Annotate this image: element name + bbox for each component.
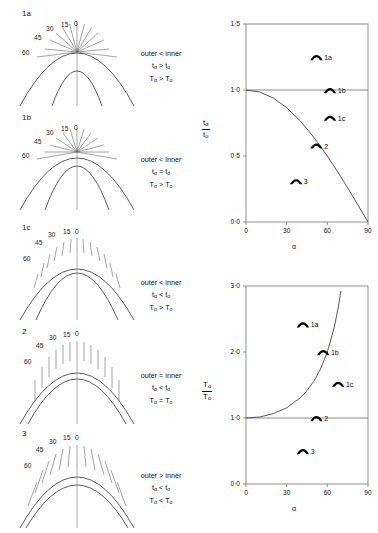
arch-panel-1c: 1c 0 15 30 45 60 outer < inner tα < to T… <box>8 222 193 320</box>
arch-panel-2: 2 0 15 30 45 60 outer = inner tα < to Tα… <box>8 326 193 424</box>
x-tick-label: 90 <box>364 227 372 234</box>
t-relation-line: tα > to <box>120 60 202 74</box>
angle-tick-15: 15 <box>61 125 68 132</box>
T-relation-line: Tα < To <box>120 495 202 509</box>
angle-tick-45: 45 <box>36 342 43 349</box>
x-tick-label: 30 <box>283 227 291 234</box>
angle-tick-45: 45 <box>34 34 41 41</box>
x-tick-label: 60 <box>324 227 332 234</box>
angle-tick-30: 30 <box>49 438 56 445</box>
y-tick-label: 0·5 <box>230 152 240 159</box>
x-axis-label-alpha: α <box>292 243 296 250</box>
y-axis-label-ta-to: tα to <box>202 118 210 142</box>
angle-tick-0: 0 <box>75 330 79 337</box>
arch-panel-3: 3 0 15 30 45 60 outer > inner tα < to Tα… <box>8 428 193 528</box>
t-relation-line: tα = to <box>120 166 202 180</box>
angle-tick-0: 0 <box>74 20 78 27</box>
data-point-marker[interactable] <box>297 449 309 454</box>
data-point-label: 3 <box>304 178 308 185</box>
y-tick-label: 3·0 <box>230 282 240 289</box>
chart-ta-to: 0·00·51·01·503060901a1b1c23 tα to α <box>200 10 375 260</box>
condition-text-3: outer > inner tα < to Tα < To <box>120 470 202 509</box>
x-tick-label: 90 <box>364 489 372 496</box>
data-point-label: 1c <box>346 381 354 388</box>
data-point-label: 2 <box>324 415 328 422</box>
y-tick-label: 1·0 <box>230 414 240 421</box>
y-tick-label: 0·0 <box>230 480 240 487</box>
y-tick-label: 2·0 <box>230 348 240 355</box>
data-point-marker[interactable] <box>310 55 322 60</box>
T-relation-line: Tα > To <box>120 302 202 316</box>
y-axis-label-denominator: to <box>202 130 210 141</box>
angle-tick-45: 45 <box>34 138 41 145</box>
data-point-label: 1a <box>311 321 319 328</box>
x-tick-label: 0 <box>244 489 248 496</box>
x-tick-label: 30 <box>283 489 291 496</box>
relation-line: outer = inner <box>120 370 202 382</box>
relation-line: outer < inner <box>120 48 202 60</box>
relation-line: outer > inner <box>120 470 202 482</box>
relation-line: outer < inner <box>120 277 202 289</box>
theory-curve <box>246 90 368 222</box>
arch-panel-1b: 1b 0 15 30 45 60 outer < inner tα = to T… <box>8 112 193 210</box>
y-tick-label: 1·0 <box>230 86 240 93</box>
t-relation-line: tα < to <box>120 482 202 496</box>
data-point-label: 2 <box>324 143 328 150</box>
condition-text-2: outer = inner tα < to Tα = To <box>120 370 202 409</box>
y-tick-label: 0·0 <box>230 218 240 225</box>
x-axis-label-alpha: α <box>292 505 296 512</box>
condition-text-1a: outer < inner tα > to Tα > To <box>120 48 202 87</box>
angle-tick-30: 30 <box>48 231 55 238</box>
T-relation-line: Tα > To <box>120 179 202 193</box>
t-relation-line: tα < to <box>120 289 202 303</box>
y-axis-label-numerator: Tα <box>202 380 212 392</box>
data-point-label: 1b <box>338 87 346 94</box>
T-relation-line: Tα = To <box>120 395 202 409</box>
t-relation-line: tα < to <box>120 382 202 396</box>
angle-tick-15: 15 <box>63 331 70 338</box>
y-axis-label-Ta-To: Tα To <box>202 380 212 404</box>
condition-text-1c: outer < inner tα < to Tα > To <box>120 277 202 316</box>
angle-tick-60: 60 <box>22 152 29 159</box>
angle-tick-15: 15 <box>63 228 70 235</box>
x-tick-label: 0 <box>244 227 248 234</box>
angle-tick-60: 60 <box>24 358 31 365</box>
angle-tick-30: 30 <box>46 25 53 32</box>
angle-tick-0: 0 <box>75 434 79 441</box>
data-point-marker[interactable] <box>324 88 336 93</box>
condition-text-1b: outer < inner tα = to Tα > To <box>120 154 202 193</box>
y-axis-label-denominator: To <box>202 392 212 403</box>
angle-tick-15: 15 <box>61 21 68 28</box>
data-point-marker[interactable] <box>310 144 322 149</box>
angle-tick-45: 45 <box>36 446 43 453</box>
arch-panel-1a: 1a 0 15 30 45 60 outer < inner tα <box>8 8 193 106</box>
relation-line: outer < inner <box>120 154 202 166</box>
data-point-marker[interactable] <box>332 382 344 387</box>
T-relation-line: Tα > To <box>120 73 202 87</box>
data-point-label: 1c <box>338 115 346 122</box>
y-tick-label: 1·5 <box>230 20 240 27</box>
x-tick-label: 60 <box>324 489 332 496</box>
angle-tick-15: 15 <box>63 434 70 441</box>
angle-tick-30: 30 <box>46 129 53 136</box>
angle-tick-0: 0 <box>74 124 78 131</box>
data-point-label: 1b <box>331 349 339 356</box>
angle-tick-60: 60 <box>24 462 31 469</box>
data-point-marker[interactable] <box>324 116 336 121</box>
data-point-label: 3 <box>311 448 315 455</box>
angle-tick-45: 45 <box>35 239 42 246</box>
y-axis-label-numerator: tα <box>202 118 210 130</box>
data-point-marker[interactable] <box>310 416 322 421</box>
angle-tick-60: 60 <box>22 49 29 56</box>
angle-tick-0: 0 <box>75 228 79 235</box>
angle-tick-30: 30 <box>49 334 56 341</box>
data-point-marker[interactable] <box>290 179 302 184</box>
data-point-label: 1a <box>324 54 332 61</box>
angle-tick-60: 60 <box>23 255 30 262</box>
chart-Ta-To: 0·01·02·03·003060901a1b1c23 Tα To α <box>200 272 375 522</box>
data-point-marker[interactable] <box>297 322 309 327</box>
